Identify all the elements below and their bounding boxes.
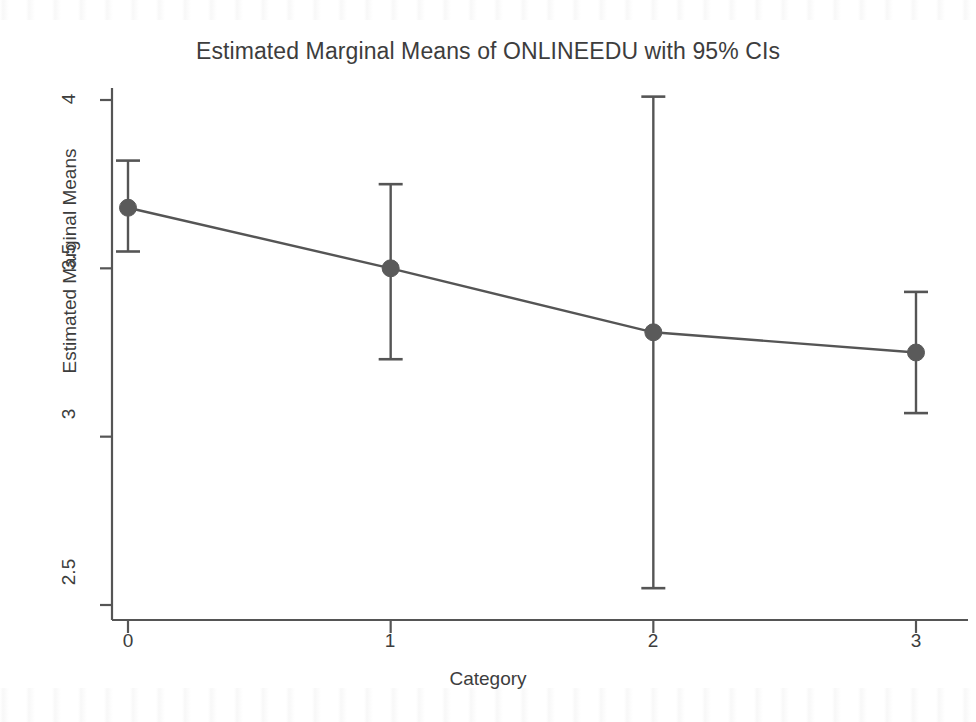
x-tick-marks [128, 620, 916, 633]
y-tick-marks [100, 100, 112, 605]
error-bars-group [116, 97, 928, 589]
plot-canvas [0, 0, 976, 722]
chart-figure: Estimated Marginal Means of ONLINEEDU wi… [0, 0, 976, 722]
data-markers-group [120, 199, 925, 361]
data-line [128, 208, 916, 353]
